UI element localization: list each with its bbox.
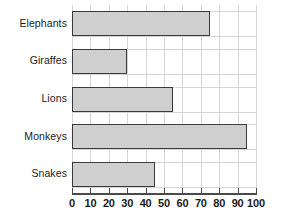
vertical-gridline <box>256 5 257 193</box>
x-axis-tick <box>182 188 183 194</box>
bar <box>72 49 127 74</box>
x-axis-tick <box>238 188 239 194</box>
y-axis-tick-label: Snakes <box>0 168 67 179</box>
x-axis-tick <box>90 188 91 194</box>
x-axis-tick <box>72 188 73 194</box>
bar <box>72 162 155 187</box>
y-axis-tick-label: Lions <box>0 93 67 104</box>
plot-area <box>72 5 256 193</box>
x-axis-tick <box>109 188 110 194</box>
bar <box>72 11 210 36</box>
x-axis-tick <box>256 188 257 194</box>
x-axis-tick <box>219 188 220 194</box>
x-axis-tick <box>164 188 165 194</box>
y-axis-tick-label: Giraffes <box>0 55 67 66</box>
x-axis-tick <box>127 188 128 194</box>
y-axis-tick-label: Elephants <box>0 18 67 29</box>
y-axis-category-labels: Elephants Giraffes Lions Monkeys Snakes <box>0 0 70 193</box>
bar <box>72 87 173 112</box>
x-axis-tick <box>146 188 147 194</box>
x-axis-tick <box>201 188 202 194</box>
bars-group <box>72 5 256 193</box>
bar <box>72 124 247 149</box>
y-axis-tick-label: Monkeys <box>0 131 67 142</box>
bar-chart: Elephants Giraffes Lions Monkeys Snakes … <box>0 0 287 220</box>
x-axis-tick-label: 100 <box>243 197 269 210</box>
